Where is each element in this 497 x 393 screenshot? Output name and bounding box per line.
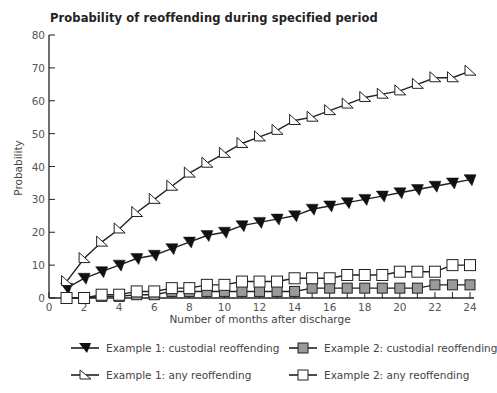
y-axis-label: Probability	[12, 140, 24, 196]
data-point	[79, 293, 90, 304]
data-point	[429, 266, 440, 277]
data-point	[184, 283, 195, 294]
data-point	[96, 267, 108, 278]
data-point	[342, 283, 352, 293]
legend-label: Example 2: any reoffending	[324, 369, 469, 381]
data-point	[97, 236, 108, 246]
grey-square-marker-icon	[288, 342, 318, 354]
data-point	[149, 286, 160, 297]
data-point	[377, 283, 387, 293]
x-tick-label: 4	[116, 301, 123, 313]
filled-triangle-marker-icon	[70, 342, 100, 354]
y-tick-label: 40	[32, 161, 45, 173]
series-group	[61, 65, 476, 303]
x-tick-label: 18	[358, 301, 371, 313]
legend-label: Example 1: any reoffending	[106, 369, 251, 381]
data-point	[167, 180, 178, 190]
x-tick-label: 0	[46, 301, 53, 313]
data-point	[377, 269, 388, 280]
x-tick-label: 16	[323, 301, 337, 313]
data-point	[307, 283, 317, 293]
data-point	[219, 147, 230, 157]
series-line	[67, 285, 470, 298]
y-tick-label: 80	[32, 29, 45, 41]
data-point	[465, 280, 475, 290]
data-point	[254, 276, 265, 287]
data-point	[62, 276, 73, 286]
legend-item-example1-custodial: Example 1: custodial reoffending	[70, 342, 279, 354]
data-point	[61, 293, 72, 304]
data-point	[184, 167, 195, 177]
y-tick-label: 60	[32, 95, 45, 107]
data-point	[149, 193, 160, 203]
data-point	[325, 283, 335, 293]
data-point	[236, 221, 248, 232]
data-point	[113, 260, 125, 271]
data-point	[290, 286, 300, 296]
data-point	[78, 273, 90, 284]
data-point	[114, 289, 125, 300]
data-point	[465, 65, 476, 75]
data-point	[359, 269, 370, 280]
y-tick-label: 50	[32, 128, 45, 140]
data-point	[219, 279, 230, 290]
x-tick-label: 8	[186, 301, 193, 313]
data-point	[412, 266, 423, 277]
x-tick-label: 10	[218, 301, 231, 313]
legend-label: Example 1: custodial reoffending	[106, 342, 279, 354]
x-tick-label: 24	[463, 301, 477, 313]
data-point	[447, 280, 457, 290]
data-point	[394, 266, 405, 277]
line-chart: 01020304050607080024681012141618202224 P…	[0, 0, 495, 330]
data-point	[131, 254, 143, 265]
data-point	[202, 157, 213, 167]
data-point	[465, 260, 476, 271]
data-point	[272, 124, 283, 134]
data-point	[166, 244, 178, 255]
data-point	[272, 276, 283, 287]
x-tick-label: 14	[288, 301, 302, 313]
data-point	[96, 289, 107, 300]
data-point	[166, 283, 177, 294]
data-point	[236, 276, 247, 287]
series-2	[62, 65, 476, 285]
open-triangle-marker-icon	[70, 369, 100, 381]
data-point	[237, 286, 247, 296]
data-point	[272, 286, 282, 296]
data-point	[306, 204, 318, 215]
y-tick-label: 0	[38, 292, 45, 304]
data-point	[324, 273, 335, 284]
data-point	[289, 273, 300, 284]
data-point	[430, 72, 441, 82]
legend-item-example1-any: Example 1: any reoffending	[70, 369, 251, 381]
data-point	[342, 269, 353, 280]
x-tick-label: 20	[393, 301, 406, 313]
data-point	[183, 237, 195, 248]
data-point	[360, 283, 370, 293]
x-axis-label: Number of months after discharge	[169, 313, 350, 325]
data-point	[131, 286, 142, 297]
data-point	[430, 280, 440, 290]
x-tick-label: 12	[253, 301, 266, 313]
series-line	[67, 71, 470, 281]
data-point	[201, 231, 213, 242]
open-square-marker-icon	[288, 369, 318, 381]
y-tick-label: 20	[32, 226, 45, 238]
data-point	[447, 260, 458, 271]
x-tick-label: 22	[428, 301, 441, 313]
data-point	[307, 273, 318, 284]
y-tick-label: 70	[32, 62, 45, 74]
legend-item-example2-any: Example 2: any reoffending	[288, 369, 469, 381]
y-tick-label: 10	[32, 259, 45, 271]
y-tick-label: 30	[32, 193, 45, 205]
data-point	[412, 283, 422, 293]
data-point	[395, 283, 405, 293]
legend-label: Example 2: custodial reoffending	[324, 342, 497, 354]
x-tick-label: 6	[151, 301, 158, 313]
series-line	[67, 265, 470, 298]
legend-item-example2-custodial: Example 2: custodial reoffending	[288, 342, 497, 354]
data-point	[132, 207, 143, 217]
data-point	[255, 286, 265, 296]
data-point	[201, 279, 212, 290]
